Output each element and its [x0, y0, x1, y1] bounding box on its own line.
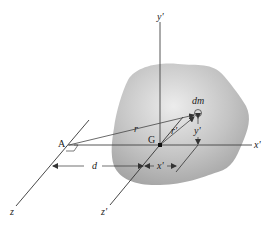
point-g-label: G [148, 134, 155, 145]
y-prime-axis-label: y' [156, 11, 164, 22]
mass-element-label: dm [192, 95, 204, 106]
vector-r-label: r [134, 123, 138, 134]
dim-y-prime-label: y' [193, 125, 201, 136]
point-g [158, 143, 162, 147]
dim-x-prime-label: x' [156, 160, 164, 171]
vector-r-prime-label: r' [171, 125, 178, 136]
right-angle-mark [66, 145, 78, 151]
x-prime-axis-label: x' [253, 139, 261, 150]
point-a-label: A [58, 138, 66, 149]
z-prime-axis-label: z' [100, 206, 108, 217]
mass-element-icon [195, 110, 202, 117]
parallel-axis-diagram: y' x' z z' A r r' G dm y' d x' [0, 0, 273, 227]
z-axis [16, 120, 89, 206]
dim-d-label: d [92, 160, 98, 171]
z-axis-label: z [9, 206, 14, 217]
